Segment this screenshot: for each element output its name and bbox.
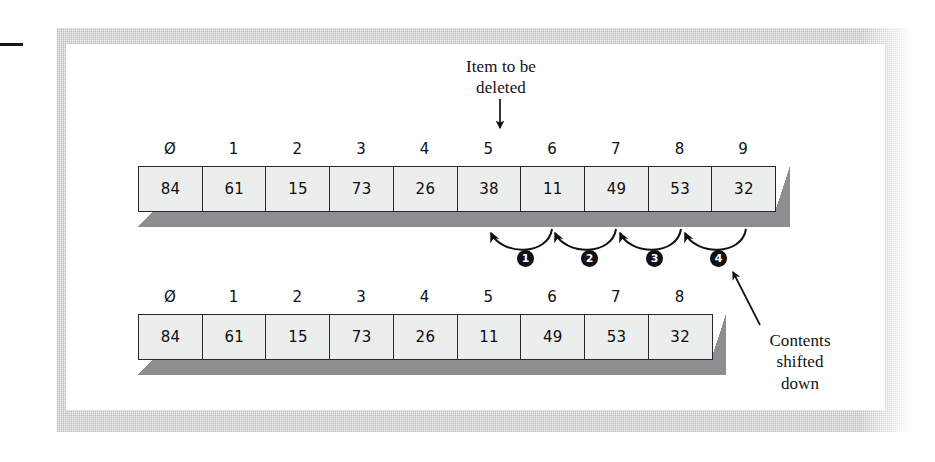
index-label: 6 bbox=[520, 140, 584, 158]
array-bevel-right bbox=[711, 314, 726, 360]
array-cell: 49 bbox=[584, 166, 649, 212]
array-cell: 73 bbox=[329, 314, 394, 360]
shift-arrow-4 bbox=[685, 229, 746, 250]
index-label: 4 bbox=[393, 288, 457, 306]
index-label: 2 bbox=[265, 288, 329, 306]
array-cell: 61 bbox=[202, 314, 267, 360]
array-cell: 73 bbox=[329, 166, 394, 212]
array-cell: 11 bbox=[520, 166, 585, 212]
contents-shifted-down-label: Contents shifted down bbox=[740, 330, 860, 394]
index-label: 9 bbox=[711, 140, 775, 158]
array-cell: 26 bbox=[393, 166, 458, 212]
array-cell: 32 bbox=[648, 314, 713, 360]
array-extrusion-bottom bbox=[153, 360, 726, 375]
shift-step-marker-2: 2 bbox=[581, 250, 598, 267]
index-label: 3 bbox=[329, 140, 393, 158]
array-cell: 61 bbox=[202, 166, 267, 212]
shift-arrow-3 bbox=[620, 229, 681, 250]
shift-arrow-1 bbox=[491, 229, 552, 250]
index-label: Ø bbox=[138, 140, 202, 158]
array-cell: 84 bbox=[138, 314, 203, 360]
index-label: 6 bbox=[520, 288, 584, 306]
index-label: 7 bbox=[584, 288, 648, 306]
array-bevel-left bbox=[138, 360, 153, 375]
array-cell: 84 bbox=[138, 166, 203, 212]
index-label: 2 bbox=[265, 140, 329, 158]
array-cell: 53 bbox=[648, 166, 713, 212]
contents-shifted-pointer-arrow bbox=[733, 272, 760, 325]
after-array: Ø12345678846115732611495332 bbox=[138, 288, 726, 375]
shift-arrow-2 bbox=[555, 229, 616, 250]
index-label: 1 bbox=[202, 288, 266, 306]
shift-step-marker-1: 1 bbox=[517, 250, 534, 267]
array-extrusion-right bbox=[775, 212, 790, 227]
array-cell: 49 bbox=[520, 314, 585, 360]
array-bevel-left bbox=[138, 212, 153, 227]
array-bevel-right bbox=[775, 166, 790, 212]
index-label: 7 bbox=[584, 140, 648, 158]
index-label: 4 bbox=[393, 140, 457, 158]
array-cell: 38 bbox=[457, 166, 522, 212]
array-deletion-figure: Item to be deleted Contents shifted down… bbox=[0, 0, 935, 462]
index-label: 1 bbox=[202, 140, 266, 158]
index-label: 5 bbox=[457, 288, 521, 306]
array-extrusion-right bbox=[711, 360, 726, 375]
array-extrusion-bottom bbox=[153, 212, 790, 227]
array-cell: 26 bbox=[393, 314, 458, 360]
array-cell: 53 bbox=[584, 314, 649, 360]
shift-step-marker-4: 4 bbox=[710, 250, 727, 267]
item-to-be-deleted-label: Item to be deleted bbox=[395, 56, 607, 99]
index-label: 3 bbox=[329, 288, 393, 306]
array-cell: 11 bbox=[457, 314, 522, 360]
before-array: Ø12345678984611573263811495332 bbox=[138, 140, 790, 227]
index-label: 8 bbox=[648, 140, 712, 158]
array-cell: 15 bbox=[265, 314, 330, 360]
array-cell: 32 bbox=[711, 166, 776, 212]
array-cell: 15 bbox=[265, 166, 330, 212]
index-label: Ø bbox=[138, 288, 202, 306]
index-label: 8 bbox=[648, 288, 712, 306]
shift-step-marker-3: 3 bbox=[646, 250, 663, 267]
index-label: 5 bbox=[457, 140, 521, 158]
